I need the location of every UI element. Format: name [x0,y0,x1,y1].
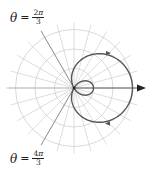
denominator: 3 [36,18,41,26]
denominator: 3 [36,159,41,167]
grid-spoke [17,88,74,121]
pole-point [73,87,76,90]
theta-symbol: θ [10,11,17,25]
grid-spoke [74,71,137,88]
equals-sign: = [20,152,29,165]
equals-sign: = [20,11,29,24]
grid-spoke [74,88,137,105]
grid-spoke [74,31,107,88]
highlighted-ray [41,88,74,145]
label-theta-4pi-3: θ = 4π 3 [10,150,44,167]
fraction: 2π 3 [32,9,44,26]
grid-spoke [74,88,131,121]
polar-axis-arrow-icon [137,85,146,92]
grid-spoke [11,71,74,88]
highlighted-ray [41,31,74,88]
grid-spoke [17,55,74,88]
grid-spoke [11,88,74,105]
fraction: 4π 3 [32,150,44,167]
theta-symbol: θ [10,152,17,166]
grid-spoke [74,55,131,88]
grid-spoke [74,88,107,145]
label-theta-2pi-3: θ = 2π 3 [10,9,44,26]
